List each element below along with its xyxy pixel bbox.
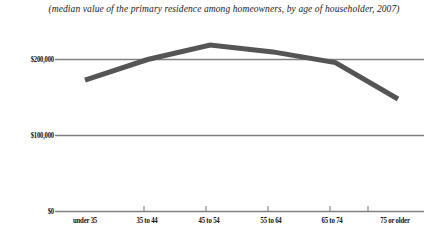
data-line-series-1 [85,45,398,99]
x-axis-label-45-to-54: 45 to 54 [180,216,238,225]
x-axis-label-35-to-44: 35 to 44 [118,216,176,225]
chart-container: (median value of the primary residence a… [0,0,448,243]
y-axis-label-1: $100,000 [14,131,54,140]
y-axis-label-0: $200,000 [14,55,54,64]
x-axis-ticks [144,206,368,211]
chart-svg [0,0,448,243]
plot-area: $200,000 $100,000 $0 under 35 35 to 44 4… [0,0,448,243]
x-axis-label-65-to-74: 65 to 74 [303,216,361,225]
x-axis-label-under-35: under 35 [56,216,114,225]
y-axis-label-2: $0 [14,207,54,216]
x-axis-label-55-to-64: 55 to 64 [242,216,300,225]
x-axis-label-75-or-older: 75 or older [366,216,424,225]
